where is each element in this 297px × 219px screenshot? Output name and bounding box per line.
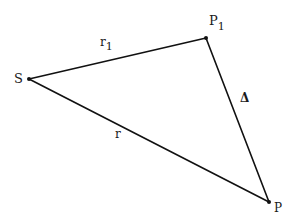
vertex-p1-point bbox=[204, 36, 208, 40]
vertex-p-label: P bbox=[274, 201, 282, 215]
vertex-p1-label: P1 bbox=[209, 13, 225, 33]
edge-s-p1-label-subscript: 1 bbox=[106, 40, 113, 53]
edge-p1-p-label: Δ bbox=[240, 91, 249, 105]
vertex-p1-label-main: P bbox=[209, 13, 218, 28]
edge-s-p1-label: r1 bbox=[100, 35, 113, 53]
edge-s-p bbox=[29, 79, 269, 202]
vertex-p-point bbox=[267, 200, 271, 204]
edge-s-p-label: r bbox=[115, 127, 121, 141]
edge-s-p1 bbox=[29, 38, 206, 79]
vertex-s-point bbox=[27, 77, 31, 81]
edge-p1-p bbox=[206, 38, 269, 202]
vertex-p1-label-subscript: 1 bbox=[218, 20, 225, 33]
vertex-s-label: S bbox=[14, 71, 23, 86]
triangle-diagram: S P1 P r1 Δ r bbox=[0, 0, 297, 219]
